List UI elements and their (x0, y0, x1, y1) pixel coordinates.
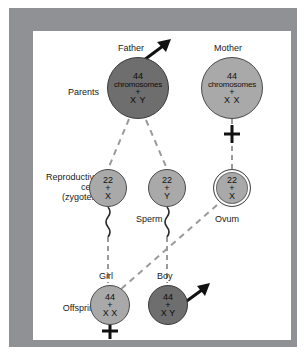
father-title: Father (118, 43, 144, 53)
flagellum-sperm-x (106, 207, 110, 237)
sex-determination-figure: Parents Reproductive cells (zygotes) Off… (0, 0, 308, 362)
line-father-to-sperm-x (108, 119, 129, 169)
mother-cell[interactable]: 44 chromosomes + X X (201, 57, 263, 119)
girl-cell[interactable]: 44 + X X (90, 285, 130, 325)
female-cross-girl (102, 323, 118, 339)
ovum-caption: Ovum (215, 214, 239, 224)
mother-alleles: X X (224, 96, 240, 105)
sperm-caption: Sperm (136, 214, 163, 224)
sperm-y-allele: Y (164, 192, 170, 201)
sperm-y-cell[interactable]: 22 + Y (148, 169, 186, 207)
row-label-parents: Parents (33, 87, 99, 97)
boy-cell[interactable]: 44 + X Y (148, 285, 188, 325)
female-cross-mother (224, 125, 240, 143)
male-arrow-boy (184, 283, 210, 303)
ovum-allele: X (229, 192, 235, 201)
sperm-x-allele: X (105, 192, 111, 201)
father-cell[interactable]: 44 chromosomes + X Y (107, 57, 169, 119)
flagellum-sperm-y (165, 207, 169, 237)
boy-alleles: X Y (161, 309, 175, 318)
father-alleles: X Y (130, 96, 146, 105)
sperm-x-cell[interactable]: 22 + X (89, 169, 127, 207)
row-label-reproductive-line1: Reproductive (33, 172, 99, 182)
ovum-cell[interactable]: 22 + X (213, 169, 251, 207)
line-father-to-sperm-y (146, 120, 167, 169)
figure-canvas: Parents Reproductive cells (zygotes) Off… (33, 31, 291, 340)
girl-title: Girl (99, 271, 113, 281)
mother-title: Mother (214, 43, 242, 53)
boy-title: Boy (157, 271, 173, 281)
figure-frame: Parents Reproductive cells (zygotes) Off… (9, 8, 297, 347)
girl-alleles: X X (103, 309, 118, 318)
